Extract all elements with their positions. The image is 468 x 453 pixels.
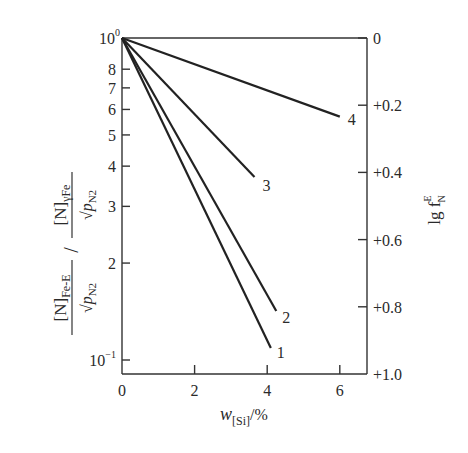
y-left-tick-label: 10−1 — [89, 349, 116, 369]
y-axis-left-label: [N]Fe-E √pN2 / [N]γFe √pN2 — [51, 172, 98, 335]
svg-text:[N]γFe: [N]γFe — [51, 185, 73, 226]
x-tick-label: 6 — [336, 382, 344, 399]
series-label-1: 1 — [277, 344, 285, 361]
series-label-3: 3 — [262, 177, 270, 194]
svg-text:√pN2: √pN2 — [78, 190, 98, 220]
y-right-tick-label: +0.8 — [373, 299, 402, 316]
y-left-tick-label: 8 — [108, 61, 116, 78]
x-tick-label: 0 — [118, 382, 126, 399]
y-left-tick-label: 2 — [108, 255, 116, 272]
y-left-tick-label: 7 — [108, 80, 116, 97]
y-right-tick-label: +0.6 — [373, 232, 402, 249]
y-right-tick-label: +0.4 — [373, 164, 402, 181]
svg-text:[N]Fe-E: [N]Fe-E — [51, 275, 73, 322]
y-left-tick-label: 4 — [108, 158, 116, 175]
series-label-2: 2 — [282, 309, 290, 326]
chart: 0246100876543210−10+0.2+0.4+0.6+0.8+1.01… — [0, 0, 468, 453]
x-tick-label: 2 — [191, 382, 199, 399]
axes-frame — [122, 38, 367, 374]
y-axis-right-label: lg fEN — [422, 195, 447, 224]
x-tick-label: 4 — [263, 382, 271, 399]
svg-text:√pN2: √pN2 — [78, 283, 98, 313]
x-axis-label: w[Si]/% — [220, 404, 268, 428]
svg-text:lg fEN: lg fEN — [422, 195, 447, 224]
y-left-tick-label: 3 — [108, 198, 116, 215]
y-right-tick-label: +0.2 — [373, 97, 402, 114]
y-right-tick-label: 0 — [373, 30, 381, 47]
y-left-tick-label: 6 — [108, 101, 116, 118]
y-left-tick-label: 5 — [108, 127, 116, 144]
svg-text:/: / — [60, 247, 82, 253]
series-label-4: 4 — [348, 111, 356, 128]
series-lines — [122, 38, 340, 348]
y-left-tick-label: 100 — [99, 27, 120, 47]
y-right-tick-label: +1.0 — [373, 366, 402, 383]
